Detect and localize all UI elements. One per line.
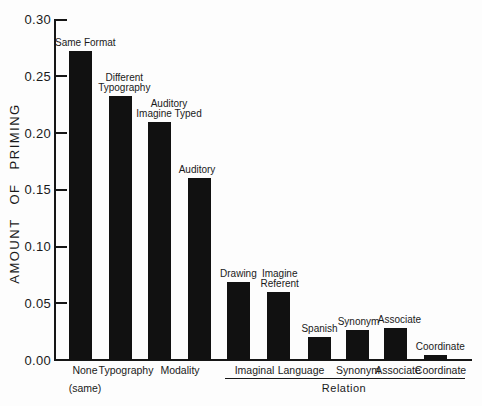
bar-label-coordinate: Coordinate (416, 342, 465, 352)
x-group-label-synonym: Synonym (336, 364, 380, 376)
y-tick-label-0.00: 0.00 (10, 353, 51, 368)
bar-label-line: Auditory (179, 165, 216, 175)
x-group-label-imaginal: Imaginal (235, 364, 275, 376)
bar-same-format (69, 51, 92, 360)
bar-drawing (227, 282, 250, 360)
bar-associate (384, 328, 407, 360)
bar-label-line: Same Format (55, 38, 116, 48)
y-tick-label-0.20: 0.20 (10, 126, 51, 141)
bar-label-auditory: Auditory (179, 165, 216, 175)
bar-label-associate: Associate (378, 315, 421, 325)
x-group-label-none: None (72, 364, 97, 376)
bar-label-line: Typography (98, 83, 150, 93)
relation-group-underline (225, 378, 465, 380)
bar-synonym (346, 330, 369, 360)
bar-label-line: Associate (378, 315, 421, 325)
y-tick-label-0.25: 0.25 (10, 69, 51, 84)
y-tick-mark-0.30 (56, 19, 67, 21)
y-tick-label-0.05: 0.05 (10, 296, 51, 311)
bar-label-different-typography: DifferentTypography (98, 73, 150, 93)
y-tick-mark-0.00 (56, 359, 67, 361)
bar-label-spanish: Spanish (301, 324, 337, 334)
y-tick-label-0.15: 0.15 (10, 182, 51, 197)
bar-label-line: Drawing (220, 269, 257, 279)
bar-label-imagine-referent: ImagineReferent (261, 269, 299, 289)
relation-group-label: Relation (322, 382, 366, 394)
y-tick-mark-0.20 (56, 132, 67, 134)
bar-label-line: Referent (261, 279, 299, 289)
y-tick-mark-0.15 (56, 189, 67, 191)
bar-imagine-referent (267, 292, 290, 360)
bar-auditory (188, 178, 211, 360)
bar-coordinate (424, 355, 447, 360)
y-tick-label-0.30: 0.30 (10, 12, 51, 27)
bar-label-line: Coordinate (416, 342, 465, 352)
x-group-label-modality: Modality (160, 364, 199, 376)
bar-label-same-format: Same Format (55, 38, 116, 48)
y-tick-mark-0.25 (56, 75, 67, 77)
y-tick-label-0.10: 0.10 (10, 239, 51, 254)
bar-auditory-imagine-typed (148, 122, 171, 360)
x-group-label-same: (same) (69, 382, 102, 394)
y-tick-mark-0.10 (56, 246, 67, 248)
x-group-label-coordinate: Coordinate (415, 364, 466, 376)
bar-label-synonym: Synonym (338, 317, 380, 327)
bar-label-auditory-imagine-typed: AuditoryImagine Typed (136, 99, 201, 119)
bar-label-drawing: Drawing (220, 269, 257, 279)
bar-label-line: Synonym (338, 317, 380, 327)
y-tick-mark-0.05 (56, 302, 67, 304)
bar-different-typography (109, 96, 132, 360)
x-group-label-typography: Typography (99, 364, 154, 376)
bar-label-line: Spanish (301, 324, 337, 334)
priming-bar-chart-figure: AMOUNT OF PRIMING 0.000.050.100.150.200.… (0, 0, 482, 406)
bar-label-line: Imagine Typed (136, 109, 201, 119)
bar-spanish (308, 337, 331, 360)
x-group-label-language: Language (278, 364, 325, 376)
